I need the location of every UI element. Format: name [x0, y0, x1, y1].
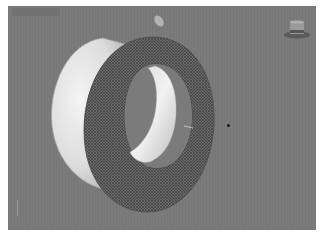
axis-tripod-icon	[17, 200, 18, 216]
light-source-icon[interactable]	[151, 13, 167, 29]
pivot-point-icon	[227, 124, 230, 127]
scene-canvas[interactable]	[8, 6, 316, 230]
viewcube-home-icon[interactable]	[282, 18, 312, 42]
3d-viewport[interactable]	[8, 6, 316, 230]
